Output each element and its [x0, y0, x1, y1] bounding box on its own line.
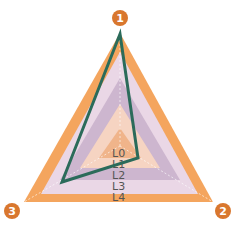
radar-chart: L0 L1 L2 L3 L4 1 2 3	[0, 0, 241, 237]
level-label: L4	[112, 191, 125, 204]
axis-badge-1: 1	[112, 10, 128, 26]
axis-badge-3: 3	[4, 203, 20, 219]
axis-label: 1	[116, 12, 124, 25]
axis-label: 2	[219, 205, 227, 218]
axis-badge-2: 2	[215, 203, 231, 219]
level-labels: L0 L1 L2 L3 L4	[112, 147, 125, 204]
axis-label: 3	[8, 205, 16, 218]
